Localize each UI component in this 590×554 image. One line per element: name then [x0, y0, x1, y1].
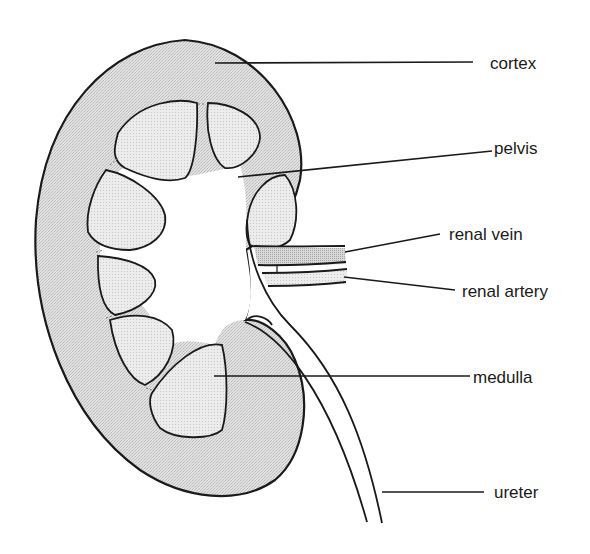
label-renal-vein: renal vein [449, 226, 523, 243]
kidney-diagram [0, 0, 590, 554]
leader-renal-vein [345, 234, 440, 252]
label-renal-artery: renal artery [462, 283, 548, 300]
label-medulla: medulla [473, 369, 533, 386]
leader-renal-artery [344, 277, 455, 290]
leader-cortex [215, 62, 473, 63]
label-cortex: cortex [490, 55, 536, 72]
label-pelvis: pelvis [494, 140, 537, 157]
label-ureter: ureter [494, 484, 538, 501]
